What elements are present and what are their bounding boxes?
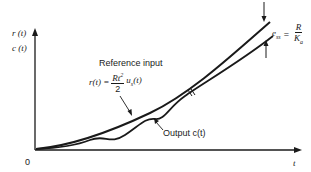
reference-formula: r(t) = Rt2 2 us(t): [89, 70, 142, 94]
reference-curve: [36, 22, 270, 149]
error-eq: =: [284, 29, 289, 39]
x-axis-arrow-icon: [294, 147, 302, 153]
origin-label: 0: [25, 157, 30, 167]
reference-leader-head-icon: [128, 109, 133, 116]
reference-leader: [120, 96, 130, 112]
error-den-sub: a: [300, 39, 303, 45]
error-fraction: R Ka: [294, 22, 303, 47]
error-lhs: ess: [272, 28, 281, 42]
output-curve: [36, 36, 273, 149]
reference-formula-fraction: Rt2 2: [111, 70, 124, 94]
y-axis-arrow-icon: [32, 28, 38, 36]
reference-caption: Reference input: [99, 58, 163, 68]
reference-formula-rhs: us(t): [126, 75, 141, 89]
output-leader: [156, 122, 163, 130]
error-lhs-sub: ss: [276, 33, 281, 39]
y-axis-label-r: r (t): [12, 28, 26, 38]
error-denominator: Ka: [294, 33, 303, 47]
reference-formula-numerator: Rt2: [111, 70, 124, 84]
numerator-exponent: 2: [120, 72, 123, 78]
reference-formula-lhs: r(t) =: [89, 77, 109, 87]
y-axis-label-c: c (t): [12, 43, 27, 53]
error-formula: ess = R Ka: [272, 22, 305, 47]
output-caption: Output c(t): [163, 128, 206, 138]
x-axis-label: t: [293, 158, 296, 168]
rhs-arg: (t): [133, 75, 142, 85]
error-numerator: R: [295, 22, 303, 33]
error-arrow-top-head-icon: [262, 16, 267, 22]
reference-formula-denominator: 2: [115, 84, 120, 94]
diagram-canvas: [0, 0, 311, 172]
